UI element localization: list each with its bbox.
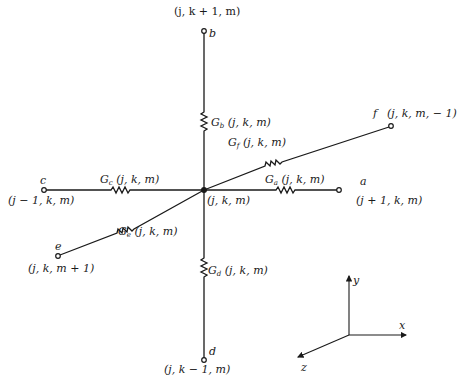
branch-c <box>46 187 204 193</box>
center-node <box>201 187 207 193</box>
branch-e <box>60 190 204 255</box>
conductance-e: Ge (j, k, m) <box>118 226 178 239</box>
node-a-letter: a <box>360 176 367 187</box>
conductance-f: Gf (j, k, m) <box>228 137 286 150</box>
terminal-b <box>202 29 207 34</box>
terminal-c <box>42 188 47 193</box>
conductance-d: Gd (j, k, m) <box>208 265 268 278</box>
node-e-letter: e <box>55 241 62 252</box>
node-e-coords: (j, k, m + 1) <box>28 263 94 274</box>
terminal-f <box>389 124 394 129</box>
node-c-letter: c <box>40 175 46 186</box>
node-b-letter: b <box>209 28 216 39</box>
y-axis-label: y <box>353 275 359 286</box>
conductance-a: Ga (j, k, m) <box>265 174 325 187</box>
node-d-letter: d <box>209 346 216 357</box>
conductance-c: Gc (j, k, m) <box>100 174 159 187</box>
center-node-label: (j, k, m) <box>207 195 250 206</box>
node-c-coords: (j − 1, k, m) <box>8 195 74 206</box>
terminal-d <box>202 358 207 363</box>
conductance-b: Gb (j, k, m) <box>211 117 271 130</box>
branch-a <box>204 187 337 193</box>
branch-d <box>201 190 207 358</box>
node-a-coords: (j + 1, k, m) <box>356 195 422 206</box>
z-axis <box>298 335 349 357</box>
node-f-coords: (j, k, m, − 1) <box>357 108 457 119</box>
branch-b <box>201 33 207 190</box>
z-axis-label: z <box>301 362 307 373</box>
node-b-coords: (j, k + 1, m) <box>174 6 240 17</box>
terminal-e <box>56 254 61 259</box>
x-axis-label: x <box>399 320 405 331</box>
node-d-coords: (j, k − 1, m) <box>164 364 230 375</box>
terminal-a <box>337 188 342 193</box>
